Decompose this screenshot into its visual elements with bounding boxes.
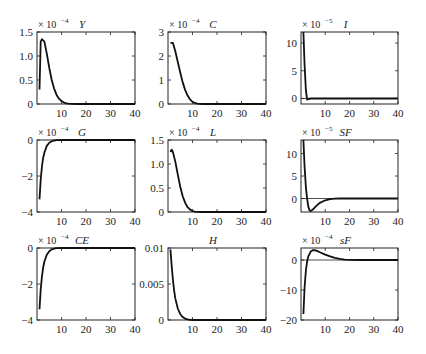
x-tick-label: 10 <box>187 215 199 227</box>
axis-exponent-power: −4 <box>192 17 200 25</box>
axes-box <box>301 32 398 104</box>
axes-box <box>168 32 266 104</box>
series-line <box>40 39 136 104</box>
y-tick-label: 0.5 <box>150 182 164 194</box>
y-tick-label: −20 <box>280 314 298 326</box>
panel-title: SF <box>339 126 352 138</box>
x-tick-label: 40 <box>393 215 405 227</box>
panel-l: 1020304000.51.01.5L× 10−4 <box>150 125 272 227</box>
x-tick-label: 20 <box>344 107 356 119</box>
x-tick-label: 30 <box>368 323 380 335</box>
axes-box <box>37 140 135 212</box>
x-tick-label: 30 <box>105 215 117 227</box>
panel-title: I <box>343 18 349 30</box>
axis-exponent-power: −4 <box>325 233 333 241</box>
axis-exponent: × 10 <box>302 127 320 138</box>
x-tick-label: 10 <box>320 323 332 335</box>
panel-title: G <box>78 126 86 138</box>
panel-title: H <box>208 234 218 246</box>
panel-y: 1020304000.51.01.5Y× 10−4 <box>19 17 141 119</box>
x-tick-label: 30 <box>368 107 380 119</box>
x-tick-label: 20 <box>212 323 224 335</box>
y-tick-label: 0 <box>159 206 165 218</box>
y-tick-label: 1 <box>159 74 165 86</box>
x-tick-label: 40 <box>261 215 273 227</box>
panel-title: L <box>209 126 216 138</box>
series-line <box>170 249 266 320</box>
y-tick-label: 3 <box>159 26 165 38</box>
panel-sf: 10203040−20−100sF× 10−4 <box>280 233 404 335</box>
axes-box <box>168 140 266 212</box>
panel-title: sF <box>340 234 351 246</box>
panel-ce: 10203040−4−20CE× 10−4 <box>21 233 141 335</box>
y-tick-label: 0.005 <box>139 278 164 290</box>
panel-title: CE <box>75 234 89 246</box>
y-tick-label: −4 <box>21 314 33 326</box>
x-tick-label: 20 <box>344 215 356 227</box>
x-tick-label: 10 <box>56 107 68 119</box>
y-tick-label: 0 <box>292 92 298 104</box>
y-tick-label: 1.0 <box>19 50 33 62</box>
series-line <box>40 248 136 309</box>
y-tick-label: −2 <box>21 278 33 290</box>
axes-box <box>37 248 135 320</box>
axes-box <box>37 32 135 104</box>
y-tick-label: 10 <box>286 148 298 160</box>
x-tick-label: 40 <box>130 323 142 335</box>
x-tick-label: 20 <box>81 107 93 119</box>
x-tick-label: 30 <box>105 323 117 335</box>
x-tick-label: 20 <box>81 323 93 335</box>
x-tick-label: 30 <box>236 107 248 119</box>
y-tick-label: 10 <box>286 37 298 49</box>
x-tick-label: 30 <box>236 215 248 227</box>
axis-exponent-power: −4 <box>192 125 200 133</box>
y-tick-label: 5 <box>292 170 298 182</box>
y-tick-label: 0 <box>28 98 34 110</box>
panel-title: C <box>209 18 217 30</box>
y-tick-label: 5 <box>292 65 298 77</box>
y-tick-label: 0.5 <box>19 74 33 86</box>
axis-exponent-power: −5 <box>325 17 333 25</box>
x-tick-label: 10 <box>56 215 68 227</box>
x-tick-label: 40 <box>130 107 142 119</box>
x-tick-label: 40 <box>393 107 405 119</box>
x-tick-label: 10 <box>56 323 68 335</box>
x-tick-label: 10 <box>187 107 199 119</box>
axis-exponent-power: −5 <box>325 125 333 133</box>
y-tick-label: 2 <box>159 50 165 62</box>
axis-exponent: × 10 <box>38 127 56 138</box>
y-tick-label: 1.0 <box>150 158 164 170</box>
series-line <box>170 43 266 104</box>
x-tick-label: 20 <box>212 215 224 227</box>
axis-exponent: × 10 <box>38 19 56 30</box>
x-tick-label: 30 <box>236 323 248 335</box>
y-tick-label: −2 <box>21 170 33 182</box>
y-tick-label: −4 <box>21 206 33 218</box>
series-line <box>170 150 266 212</box>
axis-exponent: × 10 <box>302 235 320 246</box>
x-tick-label: 40 <box>130 215 142 227</box>
axis-exponent: × 10 <box>169 127 187 138</box>
x-tick-label: 40 <box>393 323 405 335</box>
x-tick-label: 20 <box>344 323 356 335</box>
x-tick-label: 10 <box>320 215 332 227</box>
axis-exponent: × 10 <box>302 19 320 30</box>
series-line <box>40 140 136 199</box>
x-tick-label: 30 <box>368 215 380 227</box>
series-line <box>303 32 398 100</box>
y-tick-label: 0.01 <box>145 242 164 254</box>
axis-exponent: × 10 <box>169 19 187 30</box>
y-tick-label: −10 <box>280 284 298 296</box>
panel-c: 102030400123C× 10−4 <box>159 17 273 119</box>
panel-g: 10203040−4−20G× 10−4 <box>21 125 141 227</box>
x-tick-label: 30 <box>105 107 117 119</box>
y-tick-label: 0 <box>292 193 298 205</box>
impulse-response-figure: 1020304000.51.01.5Y× 10−4102030400123C× … <box>0 0 426 354</box>
panel-title: Y <box>79 18 87 30</box>
y-tick-label: 0 <box>159 98 165 110</box>
y-tick-label: 1.5 <box>19 26 33 38</box>
axis-exponent-power: −4 <box>61 17 69 25</box>
x-tick-label: 10 <box>187 323 199 335</box>
panel-sf: 102030400510SF× 10−5 <box>286 125 404 227</box>
axes-box <box>168 248 266 320</box>
